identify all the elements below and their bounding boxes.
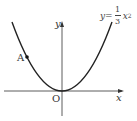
fraction-bar: [115, 15, 121, 16]
x-axis-label: x: [116, 93, 122, 103]
point-a-label: A: [17, 53, 24, 63]
equation-equals: =: [105, 11, 113, 21]
origin-label: O: [52, 94, 60, 104]
y-axis-label: y: [55, 19, 61, 29]
fraction-denominator: 3: [115, 17, 120, 26]
fraction-numerator: 1: [115, 5, 120, 14]
equation-fraction: 1 3: [115, 5, 121, 26]
equation-label: y = 1 3 x 2: [100, 5, 132, 26]
equation-exponent: 2: [128, 12, 132, 19]
point-a-marker: [25, 55, 29, 59]
